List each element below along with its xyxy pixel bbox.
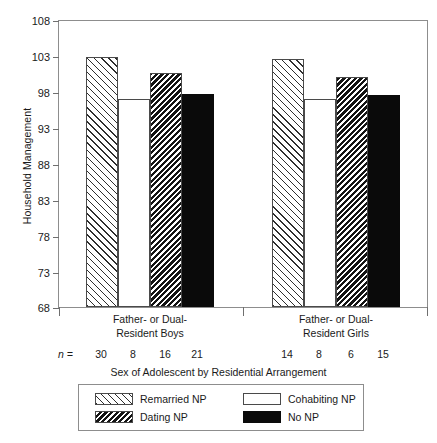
y-axis-title: Household Management [21, 66, 33, 266]
group-caption-girls-line2: Resident Girls [244, 327, 428, 341]
group-caption-boys: Father- or Dual- Resident Boys [58, 313, 242, 340]
bar-boys-no-np [182, 94, 214, 307]
chart-figure: Household Management 108 103 98 93 88 83 [0, 0, 437, 443]
y-tick-mark [53, 129, 59, 130]
y-tick-label: 73 [38, 267, 50, 279]
y-tick-label: 68 [38, 302, 50, 314]
sample-size-boys-remarried: 30 [85, 348, 117, 360]
y-tick-label: 98 [38, 87, 50, 99]
bar-boys-cohabiting-np [118, 99, 150, 307]
y-tick-mark [53, 273, 59, 274]
legend-row-2: Dating NP No NP [79, 408, 363, 426]
y-tick-mark [53, 57, 59, 58]
y-tick-mark [53, 21, 59, 22]
bar-boys-remarried-np [86, 57, 118, 307]
y-tick-label: 78 [38, 231, 50, 243]
y-tick-mark [53, 165, 59, 166]
sample-size-girls-dating: 6 [335, 348, 367, 360]
chart-legend: Remarried NP Cohabiting NP Dating NP No … [78, 384, 364, 431]
legend-label-cohabiting-np: Cohabiting NP [288, 393, 356, 405]
legend-label-dating-np: Dating NP [140, 411, 188, 423]
group-caption-boys-line2: Resident Boys [58, 327, 242, 341]
sample-size-girls-remarried: 14 [271, 348, 303, 360]
y-tick-mark [53, 93, 59, 94]
plot-area: 108 103 98 93 88 83 78 73 [58, 20, 428, 308]
y-tick-label: 103 [32, 51, 50, 63]
legend-swatch-remarried-np [95, 393, 133, 405]
legend-row-1: Remarried NP Cohabiting NP [79, 390, 363, 408]
legend-swatch-dating-np [95, 411, 133, 423]
bar-girls-dating-np [336, 77, 368, 307]
y-tick-mark [53, 237, 59, 238]
sample-size-girls-no-np: 15 [367, 348, 399, 360]
legend-swatch-no-np [243, 411, 281, 423]
sample-size-boys-dating: 16 [149, 348, 181, 360]
legend-item-remarried-np: Remarried NP [95, 393, 243, 405]
sample-size-girls-cohabiting: 8 [303, 348, 335, 360]
y-tick-label: 93 [38, 123, 50, 135]
bar-girls-remarried-np [272, 59, 304, 307]
y-tick-label: 88 [38, 159, 50, 171]
legend-item-cohabiting-np: Cohabiting NP [243, 393, 356, 405]
group-caption-boys-line1: Father- or Dual- [58, 313, 242, 327]
sample-size-label-text: n = [58, 348, 73, 360]
sample-size-label: n = [58, 348, 73, 360]
legend-label-no-np: No NP [288, 411, 319, 423]
sample-size-row: n = 30 8 16 21 14 8 6 15 [0, 348, 437, 362]
bar-boys-dating-np [150, 73, 182, 307]
legend-swatch-cohabiting-np [243, 393, 281, 405]
group-caption-girls-line1: Father- or Dual- [244, 313, 428, 327]
sample-size-boys-no-np: 21 [181, 348, 213, 360]
sample-size-boys-cohabiting: 8 [117, 348, 149, 360]
y-tick-label: 83 [38, 195, 50, 207]
legend-label-remarried-np: Remarried NP [140, 393, 207, 405]
legend-item-dating-np: Dating NP [95, 411, 243, 423]
y-tick-mark [53, 201, 59, 202]
bar-girls-cohabiting-np [304, 99, 336, 307]
group-caption-girls: Father- or Dual- Resident Girls [244, 313, 428, 340]
bar-girls-no-np [368, 95, 400, 307]
legend-item-no-np: No NP [243, 411, 319, 423]
y-tick-label: 108 [32, 15, 50, 27]
x-axis-title: Sex of Adolescent by Residential Arrange… [0, 366, 437, 378]
